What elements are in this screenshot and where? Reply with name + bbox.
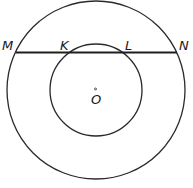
label-o: O (91, 92, 101, 107)
concentric-circles-diagram: M K L N O (0, 0, 193, 188)
label-l: L (125, 38, 132, 53)
label-m: M (2, 38, 13, 53)
center-point (95, 88, 97, 90)
label-n: N (179, 38, 189, 53)
label-k: K (60, 38, 70, 53)
